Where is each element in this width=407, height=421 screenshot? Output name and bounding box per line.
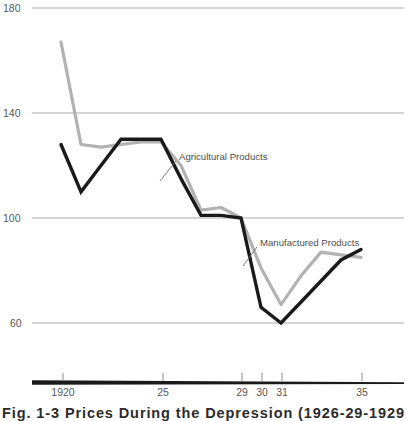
x-tick-label-1920: 1920 xyxy=(51,386,75,398)
x-axis-tick-labels: 1920 25 29 30 31 35 xyxy=(51,386,368,398)
x-tick-label-30: 30 xyxy=(256,386,268,398)
gridlines xyxy=(32,8,404,323)
y-tick-label-140: 140 xyxy=(3,107,21,119)
series-line-manufactured-products xyxy=(61,42,361,305)
x-tick-label-31: 31 xyxy=(276,386,288,398)
figure-caption: Fig. 1-3 Prices During the Depression (1… xyxy=(2,406,407,421)
series-line-agricultural-products xyxy=(61,139,361,323)
y-tick-label-100: 100 xyxy=(3,212,21,224)
x-tick-label-25: 25 xyxy=(157,386,169,398)
x-axis-baseline xyxy=(32,380,404,385)
y-axis-tick-labels: 180 140 100 60 xyxy=(3,2,22,329)
x-tick-label-35: 35 xyxy=(356,386,368,398)
y-tick-label-60: 60 xyxy=(10,317,22,329)
x-tick-label-29: 29 xyxy=(236,386,248,398)
annotation-label-agricultural: Agricultural Products xyxy=(179,151,268,162)
annotation-leader-agricultural xyxy=(160,161,176,181)
annotation-manufactured-products: Manufactured Products xyxy=(243,237,359,266)
annotation-label-manufactured: Manufactured Products xyxy=(260,237,359,248)
x-axis: 1920 25 29 30 31 35 xyxy=(32,373,404,398)
x-axis-ticks xyxy=(63,373,362,381)
y-tick-label-180: 180 xyxy=(3,2,21,14)
